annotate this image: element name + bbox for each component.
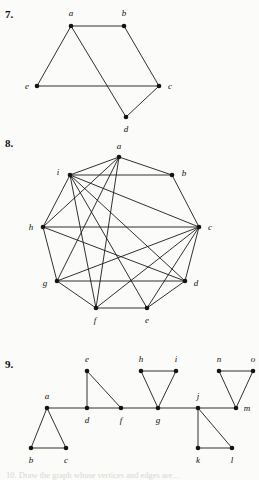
- graph-edge: [87, 371, 121, 408]
- graph-edge: [158, 371, 176, 408]
- graph-edge: [57, 281, 96, 308]
- graph-vertex: [29, 446, 34, 451]
- graph-edge: [185, 227, 199, 281]
- graph-edge: [71, 26, 126, 117]
- graph-9: [29, 369, 256, 451]
- graph-vertex: [45, 406, 50, 411]
- graph-vertex: [94, 306, 99, 311]
- problem-number: 9.: [5, 358, 13, 370]
- graph-edge: [96, 227, 199, 308]
- graph-edge: [236, 371, 253, 408]
- graph-vertex: [174, 369, 179, 374]
- graph-edge: [37, 26, 71, 86]
- graph-vertex: [145, 306, 150, 311]
- graph-vertex: [196, 446, 201, 451]
- graph-vertex: [119, 406, 124, 411]
- graph-edge: [31, 408, 47, 448]
- graph-edge: [43, 227, 185, 281]
- graph-edge: [43, 175, 70, 227]
- graph-edge: [147, 281, 185, 308]
- graph-edge: [198, 408, 232, 448]
- graph-vertex: [122, 24, 127, 29]
- graph-vertex: [35, 84, 40, 89]
- graph-vertex: [117, 155, 122, 160]
- graph-vertex: [55, 279, 60, 284]
- graph-vertex: [230, 446, 235, 451]
- graph-vertex: [68, 173, 73, 178]
- graph-edge: [141, 371, 158, 408]
- problem-number: 7.: [5, 8, 13, 20]
- graph-vertex: [85, 369, 90, 374]
- graph-edge: [43, 157, 119, 227]
- graph-edge: [172, 175, 199, 227]
- graph-vertex: [183, 279, 188, 284]
- graph-vertex: [69, 24, 74, 29]
- graph-edge: [43, 227, 57, 281]
- graph-vertex: [139, 369, 144, 374]
- graph-edge: [219, 371, 236, 408]
- graph-vertex: [157, 84, 162, 89]
- graph-edge: [126, 86, 159, 117]
- graph-edge: [70, 175, 199, 227]
- graph-vertex: [217, 369, 222, 374]
- graph-edge: [47, 408, 66, 448]
- graph-vertex: [251, 369, 256, 374]
- graph-vertex: [170, 173, 175, 178]
- graph-7: [35, 24, 162, 120]
- graph-8: [41, 155, 202, 311]
- graph-vertex: [64, 446, 69, 451]
- graph-vertex: [156, 406, 161, 411]
- graph-vertex: [196, 406, 201, 411]
- graph-vertex: [85, 406, 90, 411]
- graph-edge: [147, 227, 199, 308]
- graph-vertex: [124, 115, 129, 120]
- graph-vertex: [41, 225, 46, 230]
- graph-vertex: [234, 406, 239, 411]
- graph-edge: [57, 227, 199, 281]
- graph-edge: [124, 26, 159, 86]
- bottom-cut-text: 10. Draw the graph whose vertices and ed…: [6, 470, 179, 480]
- problem-number: 8.: [5, 137, 13, 149]
- graph-vertex: [197, 225, 202, 230]
- graph-edge: [119, 157, 172, 175]
